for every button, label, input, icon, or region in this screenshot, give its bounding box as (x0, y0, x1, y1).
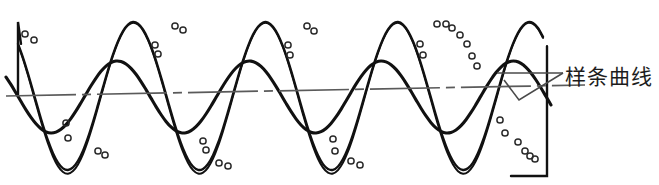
spline-curve-figure: 样条曲线 (0, 0, 659, 185)
figure-canvas (0, 0, 659, 185)
canvas-background (0, 0, 659, 185)
annotation-label-spline: 样条曲线 (565, 64, 653, 90)
